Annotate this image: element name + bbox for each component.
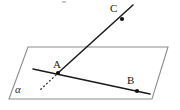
plane-alpha-label: α xyxy=(15,84,21,95)
plane-alpha-outline xyxy=(9,47,168,99)
geometry-figure: A B C α xyxy=(0,0,180,110)
figure-canvas xyxy=(0,0,180,110)
scan-speck xyxy=(62,1,66,3)
point-b-dot xyxy=(135,89,139,93)
point-c-dot xyxy=(120,17,124,21)
point-c-label: C xyxy=(110,3,117,14)
point-a-label: A xyxy=(53,59,61,70)
line-ac xyxy=(58,5,133,73)
point-b-label: B xyxy=(127,75,134,86)
dotted-hidden-segment xyxy=(40,75,56,90)
point-a-dot xyxy=(56,71,60,75)
